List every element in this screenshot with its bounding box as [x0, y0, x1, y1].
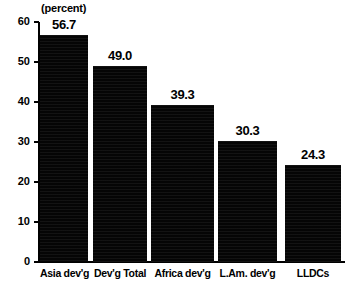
- bar: 49.0: [93, 66, 147, 262]
- y-axis-unit-label: (percent): [41, 2, 86, 14]
- y-axis-tick-label: 40: [18, 95, 30, 107]
- y-axis-tick-label: 30: [18, 135, 30, 147]
- x-axis-category-label: Africa dev'g: [151, 267, 214, 279]
- x-axis-category-label: Asia dev'g: [40, 267, 88, 279]
- x-axis-category-label: L.Am. dev'g: [218, 267, 277, 279]
- bar-value-label: 39.3: [170, 87, 194, 102]
- bar: 39.3: [151, 105, 214, 262]
- x-axis-category-label: Dev'g Total: [93, 267, 147, 279]
- y-axis-tick-label: 20: [18, 175, 30, 187]
- bar-value-label: 30.3: [235, 123, 259, 138]
- x-axis-category-label: LLDCs: [285, 267, 341, 279]
- y-axis-tick-label: 10: [18, 215, 30, 227]
- bar-value-label: 56.7: [52, 17, 76, 32]
- bar: 30.3: [218, 141, 277, 262]
- bar: 56.7: [40, 35, 88, 262]
- bar-value-label: 24.3: [301, 147, 325, 162]
- bar-value-label: 49.0: [108, 48, 132, 63]
- y-axis-tick-label: 0: [24, 255, 30, 267]
- plot-area: 56.749.039.330.324.3: [39, 22, 344, 262]
- bar-chart: (percent) 6050403020100 56.749.039.330.3…: [0, 0, 355, 290]
- y-axis-tick-label: 50: [18, 55, 30, 67]
- bar: 24.3: [285, 165, 341, 262]
- y-axis-tick-label: 60: [18, 15, 30, 27]
